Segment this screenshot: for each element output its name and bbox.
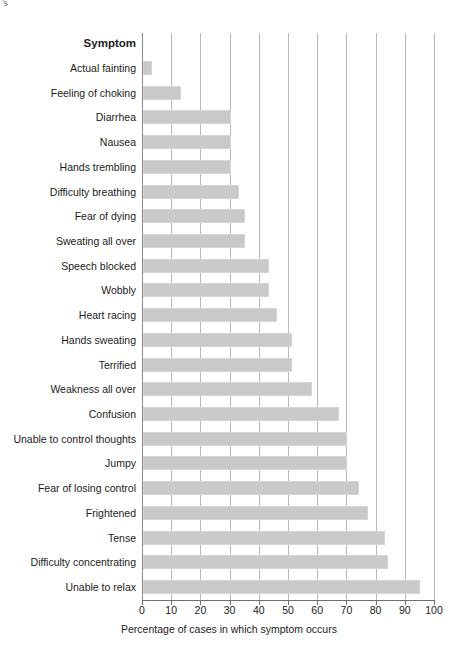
- category-label: Diarrhea: [4, 111, 136, 123]
- bar-chart-figure: SymptomActual faintingFeeling of choking…: [0, 0, 458, 667]
- bar: [143, 86, 181, 100]
- category-label: Speech blocked: [4, 260, 136, 272]
- bar: [143, 283, 269, 297]
- bar: [143, 308, 277, 322]
- category-label: Jumpy: [4, 457, 136, 469]
- bar: [143, 333, 292, 347]
- bar: [143, 358, 292, 372]
- category-label: Terrified: [4, 359, 136, 371]
- category-label: Hands sweating: [4, 334, 136, 346]
- bar: [143, 135, 231, 149]
- category-axis-labels: SymptomActual faintingFeeling of choking…: [0, 0, 136, 620]
- bar: [143, 160, 231, 174]
- category-label: Unable to relax: [4, 581, 136, 593]
- bar: [143, 506, 368, 520]
- category-label: Hands trembling: [4, 161, 136, 173]
- category-label: Actual fainting: [4, 62, 136, 74]
- gridline-100: [434, 33, 435, 600]
- value-axis-title: Percentage of cases in which symptom occ…: [0, 623, 458, 635]
- category-label: Unable to control thoughts: [4, 433, 136, 445]
- bar: [143, 234, 245, 248]
- bar: [143, 580, 420, 594]
- value-tick-label: 100: [414, 604, 454, 616]
- bar: [143, 382, 312, 396]
- category-label: Wobbly: [4, 284, 136, 296]
- bar: [143, 61, 152, 75]
- category-label: Nausea: [4, 136, 136, 148]
- bar: [143, 110, 231, 124]
- bar: [143, 185, 239, 199]
- bar: [143, 407, 339, 421]
- category-label: Heart racing: [4, 309, 136, 321]
- bar: [143, 555, 388, 569]
- gridline-90: [405, 33, 406, 600]
- bar: [143, 481, 359, 495]
- plot-area: [142, 33, 434, 600]
- category-axis-header: Symptom: [4, 37, 136, 49]
- category-label: Feeling of choking: [4, 87, 136, 99]
- category-label: Difficulty concentrating: [4, 556, 136, 568]
- category-label: Difficulty breathing: [4, 186, 136, 198]
- category-label: Sweating all over: [4, 235, 136, 247]
- category-label: Fear of dying: [4, 210, 136, 222]
- category-label: Confusion: [4, 408, 136, 420]
- bar: [143, 209, 245, 223]
- category-label: Fear of losing control: [4, 482, 136, 494]
- category-label: Tense: [4, 532, 136, 544]
- bar: [143, 432, 347, 446]
- bar: [143, 259, 269, 273]
- category-label: Weakness all over: [4, 383, 136, 395]
- category-label: Frightened: [4, 507, 136, 519]
- bar: [143, 531, 385, 545]
- gridline-80: [376, 33, 377, 600]
- bar: [143, 456, 347, 470]
